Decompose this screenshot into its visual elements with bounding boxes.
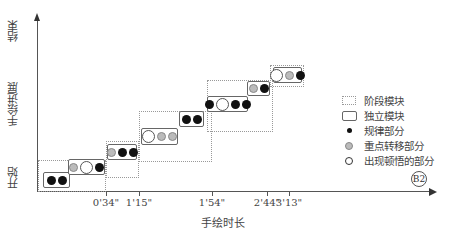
module-5 bbox=[179, 111, 204, 127]
x-tick bbox=[106, 192, 107, 196]
gray-dot-icon bbox=[345, 142, 353, 150]
open-circle-icon bbox=[216, 98, 229, 111]
black-dot-icon bbox=[129, 148, 138, 157]
black-dot-icon bbox=[182, 115, 191, 124]
x-tick bbox=[289, 192, 290, 196]
x-tick-label: 1'54" bbox=[199, 197, 225, 208]
x-tick bbox=[139, 192, 140, 196]
gray-dot-icon bbox=[249, 84, 258, 93]
gray-dot-icon bbox=[107, 148, 116, 157]
gray-dot-icon bbox=[285, 71, 294, 80]
x-axis-title: 手绘时长 bbox=[201, 214, 245, 230]
black-dot-icon bbox=[347, 128, 352, 133]
module-6 bbox=[207, 96, 248, 112]
module-3 bbox=[107, 144, 137, 160]
legend-item-open: 出现顿悟的部分 bbox=[340, 153, 434, 168]
x-tick-label: 1'15" bbox=[126, 197, 152, 208]
stage-module-icon bbox=[342, 96, 356, 105]
black-dot-icon bbox=[47, 176, 56, 185]
black-dot-icon bbox=[231, 100, 240, 109]
legend-label: 独立模块 bbox=[364, 108, 404, 123]
module-1 bbox=[43, 172, 70, 188]
black-dot-icon bbox=[193, 115, 202, 124]
y-end-label: 结束 bbox=[6, 20, 22, 42]
open-circle-icon bbox=[142, 130, 155, 143]
black-dot-icon bbox=[95, 163, 104, 172]
legend-label: 重点转移部分 bbox=[364, 138, 424, 153]
module-4 bbox=[141, 128, 178, 145]
independent-module-icon bbox=[342, 111, 357, 121]
gray-dot-icon bbox=[157, 132, 166, 141]
module-7 bbox=[247, 81, 270, 96]
legend-item-box: 独立模块 bbox=[340, 108, 434, 123]
y-axis-arrow-icon bbox=[34, 13, 40, 21]
black-dot-icon bbox=[58, 176, 67, 185]
legend-label: 规律部分 bbox=[364, 123, 404, 138]
open-circle-icon bbox=[80, 161, 93, 174]
x-tick bbox=[267, 192, 268, 196]
legend-label: 阶段模块 bbox=[364, 93, 404, 108]
black-dot-icon bbox=[296, 71, 305, 80]
x-tick-label: 3'13" bbox=[276, 197, 302, 208]
black-dot-icon bbox=[260, 84, 269, 93]
black-dot-icon bbox=[242, 100, 251, 109]
x-tick bbox=[212, 192, 213, 196]
open-circle-icon bbox=[270, 69, 283, 82]
open-circle-icon bbox=[345, 157, 353, 165]
x-axis-arrow-icon bbox=[429, 188, 437, 196]
legend-item-stage: 阶段模块 bbox=[340, 93, 434, 108]
black-dot-icon bbox=[205, 100, 214, 109]
gray-dot-icon bbox=[168, 132, 177, 141]
figure-badge: B2 bbox=[411, 171, 427, 187]
legend-item-gray: 重点转移部分 bbox=[340, 138, 434, 153]
y-axis-title: 手绘进展 bbox=[6, 82, 22, 126]
black-dot-icon bbox=[118, 148, 127, 157]
x-tick-label: 0'34" bbox=[93, 197, 119, 208]
gray-dot-icon bbox=[69, 163, 78, 172]
legend-item-black: 规律部分 bbox=[340, 123, 434, 138]
legend-label: 出现顿悟的部分 bbox=[364, 153, 434, 168]
module-2 bbox=[68, 159, 105, 175]
module-8 bbox=[273, 67, 302, 83]
y-start-label: 开始 bbox=[6, 167, 22, 189]
legend: 阶段模块 独立模块 规律部分 重点转移部分 出现顿悟的部分 bbox=[340, 93, 434, 168]
